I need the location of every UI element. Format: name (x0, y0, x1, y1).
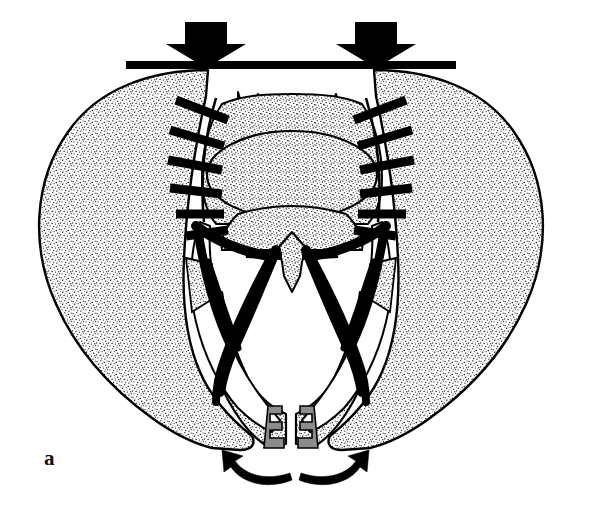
figure-container: a (0, 0, 591, 515)
horizontal-compression-bar (126, 61, 456, 69)
left-symphysis-surface (264, 406, 284, 448)
panel-label: a (44, 448, 55, 469)
right-symphysis-surface (298, 406, 318, 448)
pelvis-illustration (0, 0, 591, 515)
